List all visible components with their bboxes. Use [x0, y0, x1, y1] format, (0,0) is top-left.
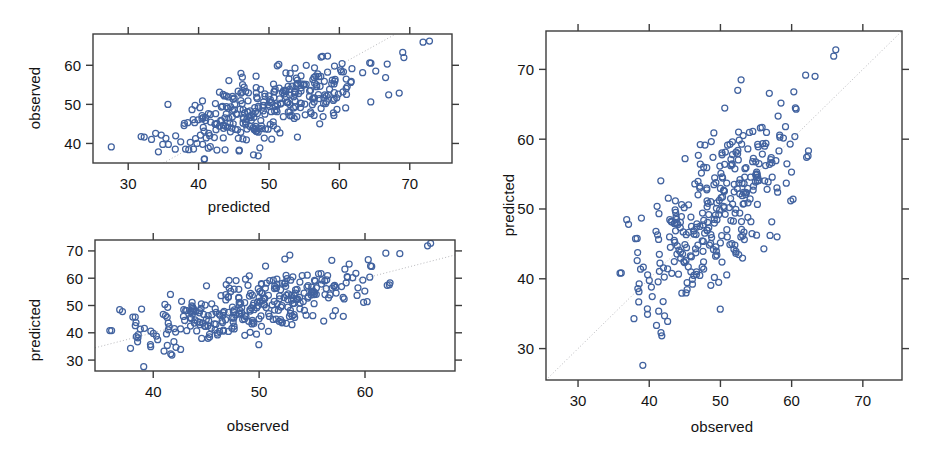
y-tick-label: 70 [517, 61, 534, 78]
y-tick-label: 30 [517, 340, 534, 357]
panel-bottom-left: 4050603040506070 observed predicted [0, 222, 470, 458]
y-tick-label: 60 [64, 57, 81, 74]
reference-line [163, 34, 395, 163]
data-points [617, 47, 839, 368]
plot-frame [93, 34, 452, 163]
panel-top-left-ylabel: observed [26, 67, 43, 130]
x-tick-label: 30 [120, 175, 137, 192]
panel-right-ylabel: predicted [500, 174, 517, 237]
panel-bottom-left-xlabel: observed [227, 417, 290, 434]
x-tick-label: 40 [641, 392, 658, 409]
x-tick-label: 50 [261, 175, 278, 192]
panel-right-xlabel: observed [691, 418, 754, 435]
panel-top-left-plot: 3040506070405060 [0, 0, 470, 222]
x-tick-label: 60 [331, 175, 348, 192]
x-tick-label: 50 [712, 392, 729, 409]
x-tick-label: 40 [145, 383, 162, 400]
y-tick-label: 50 [64, 96, 81, 113]
x-tick-label: 60 [357, 383, 374, 400]
x-tick-label: 60 [783, 392, 800, 409]
x-tick-label: 40 [190, 175, 207, 192]
y-tick-label: 40 [517, 270, 534, 287]
y-tick-label: 60 [66, 270, 83, 287]
y-tick-label: 40 [64, 135, 81, 152]
y-tick-label: 40 [66, 324, 83, 341]
x-tick-label: 70 [854, 392, 871, 409]
y-tick-label: 50 [66, 297, 83, 314]
y-tick-label: 70 [66, 242, 83, 259]
panel-right-plot: 30405060703040506070 [470, 0, 936, 458]
plot-frame [546, 31, 902, 380]
x-tick-label: 30 [570, 392, 587, 409]
x-tick-label: 50 [251, 383, 268, 400]
panel-top-left: 3040506070405060 predicted observed [0, 0, 470, 222]
data-points [108, 38, 432, 162]
figure-canvas: 3040506070405060 predicted observed 4050… [0, 0, 936, 458]
panel-top-left-xlabel: predicted [208, 198, 271, 215]
x-tick-label: 70 [401, 175, 418, 192]
panel-bottom-left-ylabel: predicted [26, 299, 43, 362]
data-points [107, 240, 434, 369]
reference-line [546, 31, 902, 380]
y-tick-label: 30 [66, 352, 83, 369]
y-tick-label: 50 [517, 200, 534, 217]
panel-right: 30405060703040506070 observed predicted [470, 0, 936, 458]
y-tick-label: 60 [517, 131, 534, 148]
